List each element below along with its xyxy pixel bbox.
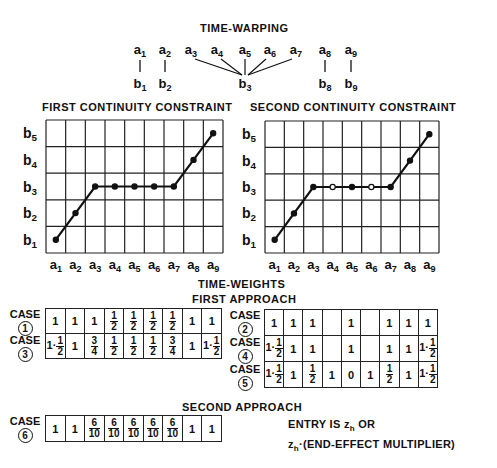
data-point xyxy=(349,184,354,189)
case-number-circle: 5 xyxy=(238,376,253,391)
data-point xyxy=(272,237,277,242)
table-row: 1·121341212123411·12 xyxy=(46,334,222,359)
x-tick-a8: a8 xyxy=(404,257,416,274)
weight-cell: 1·12 xyxy=(265,336,284,362)
weight-cell: 12 xyxy=(104,309,124,334)
weight-cell: 1 xyxy=(399,362,418,388)
time-weights-title: TIME-WEIGHTS xyxy=(198,278,285,290)
x-tick-a3: a3 xyxy=(307,257,319,274)
weight-cell xyxy=(361,310,380,336)
x-tick-a9: a9 xyxy=(423,257,435,274)
weight-cell: 1·12 xyxy=(46,334,66,359)
weight-cell: 12 xyxy=(143,309,163,334)
first-approach-title: FIRST APPROACH xyxy=(192,293,296,305)
weight-cell: 1 xyxy=(341,336,360,362)
y-tick-b2: b2 xyxy=(242,205,257,223)
weight-cell: 12 xyxy=(380,362,399,388)
data-point xyxy=(330,184,335,189)
weight-cell: 1 xyxy=(303,310,322,336)
weight-cell: 1 xyxy=(380,310,399,336)
weight-cell: 1 xyxy=(284,310,303,336)
case-number-circle: 2 xyxy=(238,322,253,337)
table-row: 1111212121211 xyxy=(46,309,222,334)
weight-cell: 1 xyxy=(341,310,360,336)
weight-cell: 1 xyxy=(182,416,202,442)
weight-cell: 1 xyxy=(46,416,66,442)
weight-cell: 610 xyxy=(143,416,163,442)
case-number-circle: 4 xyxy=(238,349,253,364)
weight-cell: 34 xyxy=(163,334,183,359)
weight-cell: 12 xyxy=(124,334,144,359)
weight-cell: 1 xyxy=(85,309,105,334)
y-tick-b4: b4 xyxy=(242,153,257,171)
table-row: 1111111 xyxy=(265,310,438,336)
weight-cell: 610 xyxy=(104,416,124,442)
weight-cell: 12 xyxy=(303,362,322,388)
case-label-4: CASE4 xyxy=(228,337,262,364)
second-approach-title: SECOND APPROACH xyxy=(182,401,302,413)
weight-cell: 12 xyxy=(124,309,144,334)
weight-cell: 1 xyxy=(265,310,284,336)
entry-note-line2: zh·(END-EFFECT MULTIPLIER) xyxy=(288,438,455,453)
weight-cell: 1·12 xyxy=(265,362,284,388)
weight-cell: 1·12 xyxy=(418,336,437,362)
weight-cell: 34 xyxy=(85,334,105,359)
x-tick-a2: a2 xyxy=(288,257,300,274)
case-label-6: CASE6 xyxy=(8,416,42,443)
weight-cell: 1 xyxy=(284,336,303,362)
table-row: 1·121121011211·12 xyxy=(265,362,438,388)
case-label-5: CASE5 xyxy=(228,364,262,391)
weight-cell xyxy=(361,336,380,362)
weight-cell: 1 xyxy=(182,334,202,359)
weight-cell: 1 xyxy=(399,310,418,336)
y-tick-b5: b5 xyxy=(242,126,257,144)
x-tick-a5: a5 xyxy=(346,257,358,274)
entry-note-line1: ENTRY IS zh OR xyxy=(288,418,375,433)
weight-cell: 1 xyxy=(399,336,418,362)
data-point xyxy=(388,184,393,189)
weight-cell: 1 xyxy=(65,416,85,442)
case-label-3: CASE3 xyxy=(8,335,42,362)
weight-cell: 1 xyxy=(65,309,85,334)
weight-cell: 1 xyxy=(182,309,202,334)
data-point xyxy=(291,211,296,216)
x-tick-a1: a1 xyxy=(269,257,281,274)
weight-cell: 1·12 xyxy=(202,334,222,359)
weight-cell: 1 xyxy=(418,310,437,336)
weight-cell: 1 xyxy=(322,362,341,388)
data-point xyxy=(311,184,316,189)
weight-cell xyxy=(322,336,341,362)
weight-cell: 1 xyxy=(284,362,303,388)
x-tick-a4: a4 xyxy=(327,257,340,274)
weight-cell: 610 xyxy=(163,416,183,442)
case-number-circle: 3 xyxy=(18,347,33,362)
weight-cell: 1 xyxy=(65,334,85,359)
weight-cell: 0 xyxy=(341,362,360,388)
weight-cell xyxy=(322,310,341,336)
x-tick-a6: a6 xyxy=(365,257,377,274)
second-continuity-chart: b1b2b3b4b5a1a2a3a4a5a6a7a8a9 xyxy=(0,0,497,280)
data-point xyxy=(369,184,374,189)
weight-cell: 1 xyxy=(202,309,222,334)
weight-cell: 1 xyxy=(202,416,222,442)
weight-cell: 610 xyxy=(85,416,105,442)
y-tick-b3: b3 xyxy=(242,179,257,197)
case-label-2: CASE2 xyxy=(228,310,262,337)
x-tick-a7: a7 xyxy=(385,257,397,274)
table-row: 1161061061061061011 xyxy=(46,416,222,442)
y-tick-b1: b1 xyxy=(242,232,257,250)
weight-cell: 12 xyxy=(104,334,124,359)
weight-cell: 12 xyxy=(163,309,183,334)
weight-cell: 12 xyxy=(143,334,163,359)
weight-cell: 610 xyxy=(124,416,144,442)
data-point xyxy=(407,158,412,163)
weight-cell: 1 xyxy=(380,336,399,362)
case-number-circle: 6 xyxy=(18,428,33,443)
table-row: 1·12111111·12 xyxy=(265,336,438,362)
data-point xyxy=(427,132,432,137)
weight-cell: 1 xyxy=(361,362,380,388)
weight-cell: 1 xyxy=(46,309,66,334)
weight-cell: 1 xyxy=(303,336,322,362)
case-label-1: CASE1 xyxy=(8,309,42,336)
weight-cell: 1·12 xyxy=(418,362,437,388)
